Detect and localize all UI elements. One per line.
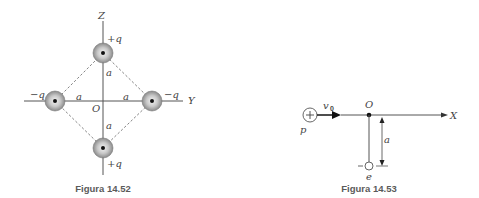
x-axis-label: X (449, 110, 458, 121)
dot-icon (101, 146, 105, 150)
charge-bottom-label: +q (107, 158, 122, 169)
distance-up-label: a (106, 67, 112, 78)
origin-label: O (92, 103, 100, 114)
electron-label: e (366, 171, 372, 182)
charge-bottom (93, 138, 113, 158)
distance-label: a (384, 134, 390, 145)
figure-14-53: p v 0 X O e a Figura 14.53 (300, 99, 458, 194)
charge-top-label: +q (107, 33, 122, 44)
dot-icon (53, 99, 57, 103)
distance-right-label: a (123, 91, 129, 102)
dot-icon (150, 99, 154, 103)
charge-right (142, 91, 162, 111)
velocity-label: v (323, 100, 329, 111)
proton (303, 108, 317, 122)
x-axis-arrowhead-icon (441, 113, 448, 118)
distance-down-label: a (106, 120, 112, 131)
electron (365, 162, 373, 170)
distance-left-label: a (76, 91, 82, 102)
figure-52-caption: Figura 14.52 (75, 183, 130, 194)
figure-53-caption: Figura 14.53 (341, 183, 396, 194)
proton-label: p (300, 124, 307, 135)
charge-left-label: −q (30, 89, 45, 100)
velocity-arrowhead-icon (332, 111, 341, 119)
figure-14-52: Z Y O +q +q −q −q a a a a Figura 14.52 (24, 10, 196, 194)
y-axis-label: Y (188, 95, 196, 106)
velocity-subscript: 0 (330, 105, 334, 112)
arrow-down-icon (380, 160, 385, 166)
charge-left (45, 91, 65, 111)
charge-right-label: −q (164, 89, 179, 100)
charge-top (93, 43, 113, 63)
arrow-up-icon (380, 117, 385, 123)
z-axis-label: Z (97, 10, 106, 21)
origin-label: O (365, 99, 373, 110)
dot-icon (101, 51, 105, 55)
